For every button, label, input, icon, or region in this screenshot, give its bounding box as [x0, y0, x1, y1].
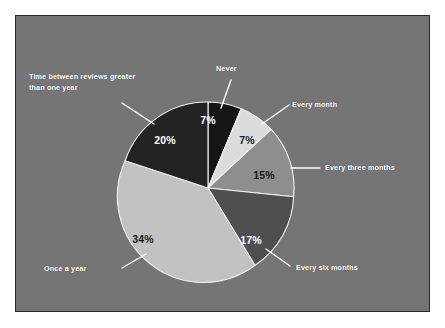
leader-line-once-a-year	[122, 254, 146, 268]
callout-label-every-three-months: Every three months	[325, 162, 395, 173]
callout-label-once-a-year: Once a year	[44, 263, 86, 274]
callout-label-never: Never	[216, 63, 237, 74]
callout-label-greater-than-one-year: Time between reviews greater than one ye…	[29, 71, 153, 93]
pie-value-every-month: 7%	[239, 134, 255, 146]
callout-label-every-six-months: Every six months	[296, 262, 358, 273]
screenshot-root: 7% 7% 15% 17% 34% 20% Never Every month …	[0, 0, 445, 328]
leader-line-every-month	[262, 105, 289, 124]
callout-label-every-month: Every month	[292, 99, 337, 110]
pie-value-never: 7%	[200, 114, 216, 126]
pie-value-every-six-months: 17%	[240, 234, 262, 246]
pie-value-greater-than-one-year: 20%	[154, 134, 176, 146]
pie-value-every-three-months: 15%	[253, 169, 275, 181]
leader-line-greater-than-one-year	[122, 103, 154, 124]
pie-value-once-a-year: 34%	[132, 233, 154, 245]
leader-line-every-six-months	[266, 249, 290, 266]
